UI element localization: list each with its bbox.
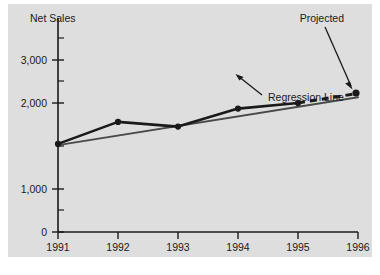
- x-tick-label-1995: 1995: [286, 241, 310, 253]
- x-tick-label-1992: 1992: [106, 241, 130, 253]
- regression-annotation-label: Regression Line: [268, 91, 344, 103]
- y-tick-label-0: 0: [41, 226, 47, 238]
- x-tick-label-1996: 1996: [346, 241, 370, 253]
- projected-annotation-label: Projected: [300, 12, 345, 24]
- data-point-1992: [115, 119, 121, 125]
- x-tick-label-1994: 1994: [226, 241, 250, 253]
- data-point-1991: [55, 141, 61, 147]
- axes-frame: [58, 18, 358, 232]
- y-axis-title: Net Sales: [30, 12, 76, 24]
- x-tick-label-1993: 1993: [166, 241, 190, 253]
- y-tick-label-3000: 3,000: [21, 54, 47, 66]
- y-tick-label-1000: 1,000: [21, 183, 47, 195]
- data-point-1994: [235, 106, 241, 112]
- y-tick-label-2000: 2,000: [21, 97, 47, 109]
- chart-figure: 3,000 2,000 1,000 0 Net Sales 1991 1992 …: [0, 0, 380, 275]
- projected-annotation: Projected: [300, 12, 353, 90]
- regression-annotation-arrow-shaft: [238, 76, 262, 95]
- x-axis-ticks: [58, 232, 358, 239]
- regression-annotation: Regression Line: [236, 74, 345, 103]
- x-tick-label-1991: 1991: [46, 241, 70, 253]
- data-point-1993: [175, 124, 181, 130]
- x-axis-tick-labels: 1991 1992 1993 1994 1995 1996: [46, 241, 370, 253]
- net-sales-actual-line: [58, 103, 298, 144]
- net-sales-line-chart: 3,000 2,000 1,000 0 Net Sales 1991 1992 …: [0, 0, 380, 275]
- regression-line: [58, 97, 358, 145]
- projected-annotation-arrow-shaft: [325, 27, 351, 86]
- y-axis-tick-labels: 3,000 2,000 1,000 0: [21, 54, 47, 238]
- data-point-1996-projected: [352, 89, 359, 96]
